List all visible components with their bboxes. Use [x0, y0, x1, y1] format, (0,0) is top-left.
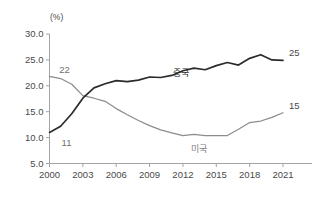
x-tick-label: 2018	[239, 169, 260, 180]
series-line-usa	[50, 76, 284, 135]
line-chart: (%) 5.010.015.020.025.030.0 200020032006…	[0, 0, 323, 197]
series-line-china	[50, 55, 284, 133]
y-tick-label: 25.0	[25, 54, 44, 65]
y-tick-label: 10.0	[25, 132, 44, 143]
x-tick-label: 2021	[272, 169, 293, 180]
x-tick-label: 2009	[139, 169, 160, 180]
x-tick-label: 2000	[39, 169, 60, 180]
end-value-usa: 15	[289, 100, 300, 111]
series-label-china: 중국	[173, 68, 189, 78]
y-axis-ticks: 5.010.015.020.025.030.0	[25, 28, 50, 169]
chart-container: (%) 5.010.015.020.025.030.0 200020032006…	[0, 0, 323, 197]
end-value-china: 25	[289, 47, 300, 58]
y-tick-label: 30.0	[25, 28, 44, 39]
x-axis-ticks: 20002003200620092012201520182021	[39, 164, 294, 180]
y-axis-unit-label: (%)	[50, 12, 63, 22]
y-tick-label: 15.0	[25, 106, 44, 117]
x-tick-label: 2006	[106, 169, 127, 180]
start-value-usa: 22	[59, 64, 70, 75]
y-tick-label: 20.0	[25, 80, 44, 91]
x-tick-label: 2015	[206, 169, 227, 180]
start-value-china: 11	[62, 137, 72, 148]
x-tick-label: 2012	[172, 169, 193, 180]
series-label-usa: 미국	[191, 144, 207, 154]
x-tick-label: 2003	[72, 169, 93, 180]
y-tick-label: 5.0	[30, 158, 43, 169]
